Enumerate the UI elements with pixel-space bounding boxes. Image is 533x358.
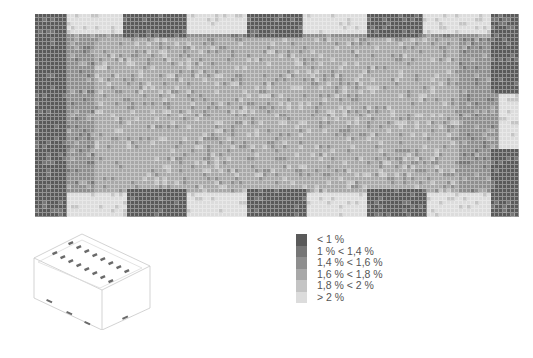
legend-item: 1,4 % < 1,6 % xyxy=(296,257,383,269)
legend-swatch xyxy=(296,280,307,292)
legend-label: 1,6 % < 1,8 % xyxy=(317,269,383,280)
legend-swatch xyxy=(296,234,307,246)
legend-swatch xyxy=(296,246,307,258)
legend-label: 1 % < 1,4 % xyxy=(317,246,374,257)
legend-label: 1,8 % < 2 % xyxy=(317,280,374,291)
building-isometric-icon xyxy=(20,226,160,330)
legend-item: < 1 % xyxy=(296,234,383,246)
legend-swatch xyxy=(296,292,307,304)
legend-label: 1,4 % < 1,6 % xyxy=(317,257,383,268)
daylight-heatmap xyxy=(35,14,519,217)
legend-label: > 2 % xyxy=(317,292,344,303)
legend-swatch xyxy=(296,257,307,269)
legend-label: < 1 % xyxy=(317,234,344,245)
legend-item: > 2 % xyxy=(296,292,383,304)
legend-swatch xyxy=(296,269,307,281)
legend: < 1 % 1 % < 1,4 % 1,4 % < 1,6 % 1,6 % < … xyxy=(296,234,383,303)
legend-item: 1,8 % < 2 % xyxy=(296,280,383,292)
